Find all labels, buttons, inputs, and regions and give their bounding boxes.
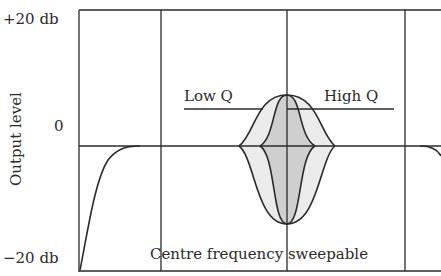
y-tick-zero: 0 <box>54 117 64 135</box>
y-tick-top: +20 db <box>3 10 59 28</box>
low-rolloff-curve <box>80 146 140 270</box>
high-rolloff-curve <box>420 146 441 156</box>
low-q-label: Low Q <box>184 87 233 105</box>
high-q-label: High Q <box>324 87 378 105</box>
y-axis-label: Output level <box>7 92 25 186</box>
centre-frequency-label: Centre frequency sweepable <box>150 245 368 263</box>
eq-chart: +20 db 0 −20 db Output level Low Q High … <box>0 0 441 276</box>
y-tick-bottom: −20 db <box>3 249 59 267</box>
